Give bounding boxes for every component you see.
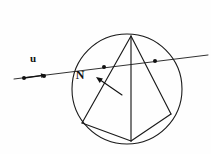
label-n: N bbox=[76, 68, 85, 82]
transversal-point bbox=[102, 65, 106, 69]
transversal-point bbox=[153, 59, 157, 63]
geometry-diagram: u N bbox=[0, 0, 211, 154]
label-u: u bbox=[30, 52, 36, 64]
figure-root: u N bbox=[0, 0, 211, 154]
